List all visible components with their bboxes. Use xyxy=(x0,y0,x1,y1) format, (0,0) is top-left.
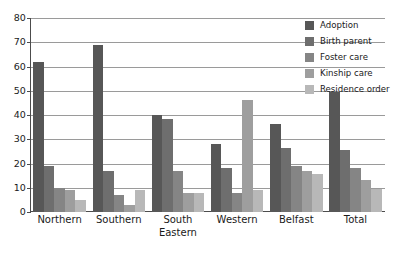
y-axis-tick-label: 10 xyxy=(0,183,26,193)
bar xyxy=(44,166,55,212)
bar xyxy=(371,189,382,212)
legend-item: Kinship care xyxy=(305,66,397,81)
bar xyxy=(270,124,281,213)
bar-group xyxy=(30,18,89,212)
bar xyxy=(152,115,163,212)
bar xyxy=(221,168,232,212)
legend-item: Birth parent xyxy=(305,34,397,49)
legend-item: Adoption xyxy=(305,18,397,33)
legend-item: Foster care xyxy=(305,50,397,65)
y-axis-tick-label: 20 xyxy=(0,159,26,169)
legend-label: Adoption xyxy=(320,21,358,30)
x-axis-tick-label: Total xyxy=(326,214,385,239)
bar-group xyxy=(89,18,148,212)
legend-swatch xyxy=(305,53,314,62)
bar xyxy=(114,195,125,212)
x-axis-tick-label: SouthEastern xyxy=(148,214,207,239)
bar xyxy=(329,92,340,212)
y-axis-tick-label: 30 xyxy=(0,134,26,144)
grouped-bar-chart: 80706050403020100 NorthernSouthernSouthE… xyxy=(0,0,398,274)
legend-label: Kinship care xyxy=(320,69,373,78)
y-axis-tick-mark xyxy=(27,212,31,213)
bar xyxy=(183,193,194,212)
y-axis-tick-label: 40 xyxy=(0,110,26,120)
y-axis-tick-label: 80 xyxy=(0,13,26,23)
bar xyxy=(93,45,104,212)
bar xyxy=(350,168,361,212)
x-axis-tick-label: Northern xyxy=(30,214,89,239)
legend-label: Residence order xyxy=(320,85,390,94)
bar xyxy=(65,190,76,212)
chart-legend: AdoptionBirth parentFoster careKinship c… xyxy=(305,18,397,98)
y-axis-tick-label: 50 xyxy=(0,86,26,96)
bar xyxy=(242,100,253,212)
y-axis-tick-label: 70 xyxy=(0,37,26,47)
bar xyxy=(232,193,243,212)
bar xyxy=(75,200,86,212)
x-axis-tick-labels: NorthernSouthernSouthEasternWesternBelfa… xyxy=(30,214,385,239)
bar xyxy=(135,190,146,212)
bar xyxy=(211,144,222,212)
y-axis-tick-label: 0 xyxy=(0,207,26,217)
bar xyxy=(340,150,351,212)
bar xyxy=(33,62,44,212)
bar-group xyxy=(148,18,207,212)
bar xyxy=(281,148,292,212)
bar xyxy=(361,180,372,212)
x-axis-tick-label: Southern xyxy=(89,214,148,239)
bar xyxy=(312,174,323,212)
legend-label: Birth parent xyxy=(320,37,372,46)
bar xyxy=(253,190,264,212)
y-axis-tick-label: 60 xyxy=(0,62,26,72)
bar xyxy=(194,193,205,212)
x-axis-tick-label: Belfast xyxy=(267,214,326,239)
legend-swatch xyxy=(305,69,314,78)
bar xyxy=(302,171,313,212)
x-axis-tick-label: Western xyxy=(208,214,267,239)
legend-swatch xyxy=(305,37,314,46)
bar xyxy=(173,171,184,212)
bar xyxy=(124,205,135,212)
bar xyxy=(162,119,173,212)
legend-swatch xyxy=(305,21,314,30)
legend-label: Foster care xyxy=(320,53,368,62)
bar-group xyxy=(208,18,267,212)
bar xyxy=(54,188,65,212)
legend-swatch xyxy=(305,85,314,94)
bar xyxy=(291,166,302,212)
bar xyxy=(103,171,114,212)
legend-item: Residence order xyxy=(305,82,397,97)
